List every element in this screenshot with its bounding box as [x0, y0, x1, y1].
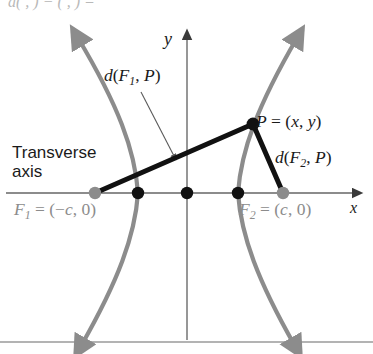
point-p-P: P	[256, 111, 267, 131]
focus-2-dot	[277, 187, 289, 199]
transverse-axis-line-2: axis	[12, 162, 96, 181]
distance-f1-p-F: F	[119, 65, 130, 85]
focus-1-zero: 0	[82, 199, 91, 219]
distance-f2-p-comma: ,	[306, 147, 315, 167]
transverse-axis-label: Transverse axis	[12, 143, 96, 181]
distance-f2-p-d: d	[275, 147, 284, 167]
focus-1-label: F1 = (−c, 0)	[14, 200, 96, 222]
transverse-axis-line-1: Transverse	[12, 143, 96, 162]
focus-1-minus: −	[55, 199, 65, 219]
pointer-arrow-dF1P	[141, 92, 174, 156]
vertex-left-dot	[132, 187, 144, 199]
y-axis-label: y	[164, 29, 172, 49]
focus-1-F: F	[14, 199, 25, 219]
focus-1-c: c	[65, 199, 73, 219]
point-p-comma: ,	[299, 111, 308, 131]
focus-2-comma: ,	[288, 199, 297, 219]
cropped-top-text: d( , ) − ( , ) =	[8, 0, 95, 11]
focus-2-eq: =	[256, 199, 275, 219]
distance-f1-p-label: d(F1, P)	[104, 66, 161, 88]
point-p-x: x	[291, 111, 299, 131]
vertex-right-dot	[232, 187, 244, 199]
distance-f2-p-close: )	[326, 147, 332, 167]
x-axis-label: x	[350, 199, 357, 217]
focus-1-close: )	[90, 199, 96, 219]
distance-f2-p-label: d(F2, P)	[275, 148, 332, 170]
point-p-close: )	[315, 111, 321, 131]
focus-2-F: F	[239, 199, 250, 219]
center-dot	[181, 187, 193, 199]
segment-f1-p	[95, 124, 253, 193]
focus-2-close: )	[305, 199, 311, 219]
point-p-label: P = (x, y)	[256, 112, 321, 132]
distance-f1-p-close: )	[155, 65, 161, 85]
focus-1-dot	[89, 187, 101, 199]
focus-2-c: c	[280, 199, 288, 219]
focus-1-comma: ,	[73, 199, 82, 219]
focus-2-label: F2 = (c, 0)	[239, 200, 311, 222]
distance-f1-p-P: P	[144, 65, 155, 85]
distance-f1-p-comma: ,	[135, 65, 144, 85]
distance-f2-p-P: P	[315, 147, 326, 167]
hyperbola-figure: d( , ) − ( , ) = d(F1, P) P = (x, y) d(F…	[0, 0, 373, 354]
point-p-eq: =	[267, 111, 286, 131]
distance-f2-p-F: F	[290, 147, 301, 167]
focus-1-eq: =	[31, 199, 50, 219]
distance-f1-p-d: d	[104, 65, 113, 85]
